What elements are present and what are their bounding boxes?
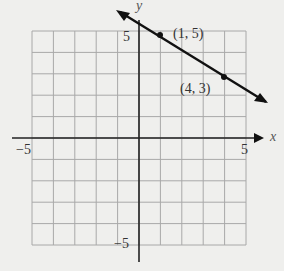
point-label-4-3: (4, 3) bbox=[180, 82, 210, 96]
point-label-1-5: (1, 5) bbox=[173, 27, 203, 41]
arrow-upper-left-icon bbox=[116, 10, 130, 21]
x-axis-label: x bbox=[270, 130, 276, 144]
x-tick-5: 5 bbox=[241, 143, 248, 157]
x-tick-neg5: −5 bbox=[16, 143, 31, 157]
y-tick-neg5: −5 bbox=[114, 237, 129, 251]
point-1-5 bbox=[157, 32, 163, 38]
coordinate-plane bbox=[0, 0, 284, 271]
y-axis-label: y bbox=[136, 0, 142, 13]
y-tick-5: 5 bbox=[123, 30, 130, 44]
point-4-3 bbox=[221, 74, 227, 80]
